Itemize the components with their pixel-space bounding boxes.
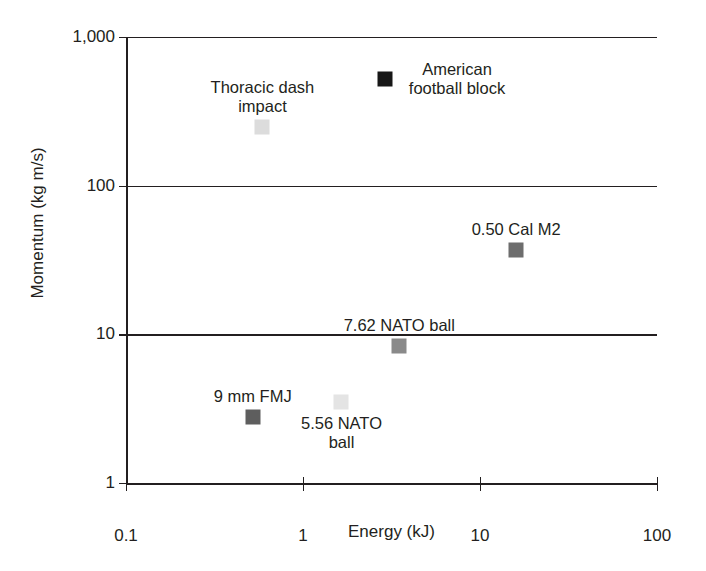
x-tick-100: [657, 477, 658, 491]
y-tick-100: [119, 186, 133, 187]
data-point-label-050-cal-m2: 0.50 Cal M2: [472, 220, 561, 239]
plot-area: 0.1110100 1101001,000 Thoracic dash impa…: [126, 37, 657, 483]
y-axis-line: [126, 37, 128, 483]
y-tick-10: [119, 334, 133, 335]
x-axis-line: [126, 483, 657, 485]
data-point-050-cal-m2: [509, 242, 524, 257]
y-tick-label-10: 10: [96, 324, 115, 344]
scatter-chart-figure: 0.1110100 1101001,000 Thoracic dash impa…: [0, 0, 706, 571]
x-axis-title: Energy (kJ): [126, 522, 657, 542]
y-tick-label-100: 100: [87, 176, 115, 196]
data-point-label-9mm-fmj: 9 mm FMJ: [214, 387, 292, 406]
data-point-label-762-nato-ball: 7.62 NATO ball: [344, 316, 455, 335]
x-tick-1: [303, 477, 304, 491]
data-point-762-nato-ball: [392, 339, 407, 354]
data-point-label-american-football-block: American football block: [409, 60, 505, 98]
y-tick-label-1000: 1,000: [72, 27, 115, 47]
y-tick-label-1: 1: [106, 473, 115, 493]
y-axis-title: Momentum (kg m/s): [23, 0, 53, 446]
y-tick-1: [119, 483, 133, 484]
data-point-american-football-block: [377, 72, 392, 87]
data-point-label-thoracic-dash-impact: Thoracic dash impact: [211, 78, 315, 116]
gridline-y-100: [126, 186, 657, 187]
data-point-label-556-nato-ball: 5.56 NATO ball: [301, 414, 382, 452]
data-point-556-nato-ball: [334, 395, 349, 410]
gridline-y-1000: [126, 37, 657, 38]
y-tick-1000: [119, 37, 133, 38]
data-point-9mm-fmj: [245, 409, 260, 424]
x-tick-10: [480, 477, 481, 491]
data-point-thoracic-dash-impact: [255, 119, 270, 134]
